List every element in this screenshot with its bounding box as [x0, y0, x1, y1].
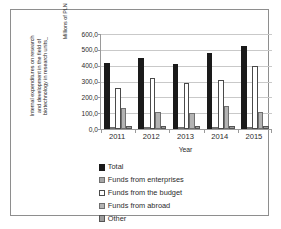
y-axis-tick-label: 500,0: [81, 46, 98, 53]
bar[interactable]: [207, 53, 213, 129]
bar[interactable]: [241, 46, 247, 129]
bar[interactable]: [173, 64, 179, 129]
legend-item[interactable]: Funds from the budget: [99, 187, 259, 200]
y-axis-tick-label: 600,0: [81, 31, 98, 38]
legend-swatch-total: [99, 164, 105, 170]
bar[interactable]: [263, 126, 269, 129]
legend-item[interactable]: Funds from enterprises: [99, 174, 259, 187]
y-axis-title-line-3: biotechnology in research units_: [42, 37, 48, 115]
legend-item[interactable]: Other: [99, 212, 259, 225]
y-axis-title: Internal expenditures on research and de…: [15, 20, 63, 155]
x-axis-tick-mark: [271, 129, 272, 133]
y-axis-tick-label: 300,0: [81, 78, 98, 85]
y-axis-tick-labels: 600,0500,0400,0300,0200,0100,00,0: [65, 28, 98, 133]
legend-item-label: Funds from abroad: [108, 202, 170, 210]
y-axis-title-text: Internal expenditures on research and de…: [29, 10, 49, 142]
y-axis-tick-label: 200,0: [81, 94, 98, 101]
legend-item-label: Funds from enterprises: [108, 176, 184, 184]
legend-swatch-enterprises: [99, 177, 105, 183]
bar[interactable]: [138, 58, 144, 129]
bar[interactable]: [195, 126, 201, 129]
bar[interactable]: [104, 63, 110, 129]
bar[interactable]: [161, 126, 167, 129]
x-axis-tick-label: 2015: [237, 132, 271, 141]
legend-item-label: Other: [108, 215, 126, 223]
bar-group: [135, 34, 169, 129]
legend-item[interactable]: Funds from abroad: [99, 199, 259, 212]
bar[interactable]: [126, 126, 132, 129]
legend-swatch-abroad: [99, 203, 105, 209]
y-axis-title-line-1: Internal expenditures on research: [29, 35, 35, 116]
bar-group: [169, 34, 203, 129]
chart-frame: Internal expenditures on research and de…: [10, 9, 269, 216]
y-axis-tick-label: 100,0: [81, 110, 98, 117]
legend-item-label: Funds from the budget: [108, 189, 182, 197]
chart-legend: TotalFunds from enterprisesFunds from th…: [99, 161, 259, 225]
bar-group: [238, 34, 272, 129]
legend-swatch-budget: [99, 190, 105, 196]
x-axis-tick-label: 2011: [100, 132, 134, 141]
bar-group: [204, 34, 238, 129]
legend-item[interactable]: Total: [99, 161, 259, 174]
x-axis-tick-labels: 20112012201320142015: [100, 132, 271, 141]
x-axis-tick-label: 2014: [203, 132, 237, 141]
legend-item-label: Total: [108, 163, 124, 171]
plot-area: [100, 34, 272, 130]
bar-groups: [101, 34, 272, 129]
x-axis-title: Year: [100, 146, 271, 153]
x-axis-tick-label: 2013: [168, 132, 202, 141]
x-axis-tick-label: 2012: [134, 132, 168, 141]
legend-swatch-other: [99, 215, 105, 221]
y-axis-title-line-2: and development in the field of: [36, 39, 42, 113]
bar-group: [101, 34, 135, 129]
y-axis-tick-label: 400,0: [81, 62, 98, 69]
bar[interactable]: [229, 126, 235, 129]
y-axis-tick-label: 0,0: [89, 126, 98, 133]
